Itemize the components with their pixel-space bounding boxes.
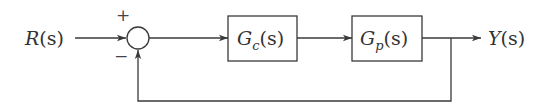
plant-block: Gp(s) xyxy=(352,16,422,61)
output-label: Y(s) xyxy=(488,27,525,49)
controller-block: Gc(s) xyxy=(228,16,297,61)
minus-sign: − xyxy=(114,46,128,66)
plus-sign: + xyxy=(116,5,130,25)
summing-junction xyxy=(127,27,149,49)
block-diagram: R(s) + − Gc(s) Gp(s) Y(s) xyxy=(0,0,553,107)
input-label: R(s) xyxy=(24,27,64,49)
